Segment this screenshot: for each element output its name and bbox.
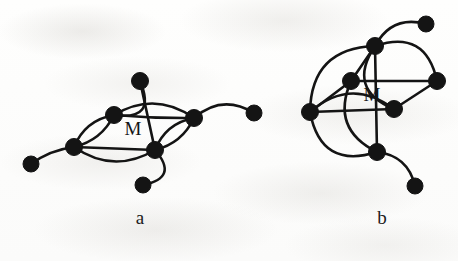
edge-left-to-inner-lower (310, 109, 394, 112)
node-inner-lower-node[interactable] (386, 101, 403, 118)
panel-b-caption: b (367, 207, 397, 229)
node-right-node[interactable] (429, 73, 446, 90)
edge-left-to-bottom-outer-arc (310, 112, 377, 156)
panel-a-caption: a (125, 207, 155, 229)
node-bottom-pendant[interactable] (135, 177, 151, 193)
node-lower-right-pendant[interactable] (407, 178, 423, 194)
figure-container: MaMb (0, 0, 458, 261)
node-lower-right-hub[interactable] (147, 142, 164, 159)
panel-b-center-label: M (359, 84, 385, 106)
node-top-node[interactable] (132, 73, 149, 90)
node-upper-right-pendant[interactable] (418, 16, 434, 32)
node-left-hub[interactable] (66, 139, 83, 156)
node-left-pendant[interactable] (23, 156, 39, 172)
edge-right-to-right-pendant (194, 104, 254, 118)
edge-top-to-right-arc (375, 42, 437, 81)
node-top-node[interactable] (367, 38, 384, 55)
node-left-hub[interactable] (302, 104, 319, 121)
panel-a-center-label: M (120, 118, 146, 140)
node-right-pendant[interactable] (246, 105, 262, 121)
node-inner-upper-node[interactable] (343, 73, 360, 90)
node-bottom-node[interactable] (369, 144, 386, 161)
edge-left-to-lower-right-straight (74, 147, 155, 150)
node-right-hub[interactable] (186, 110, 203, 127)
